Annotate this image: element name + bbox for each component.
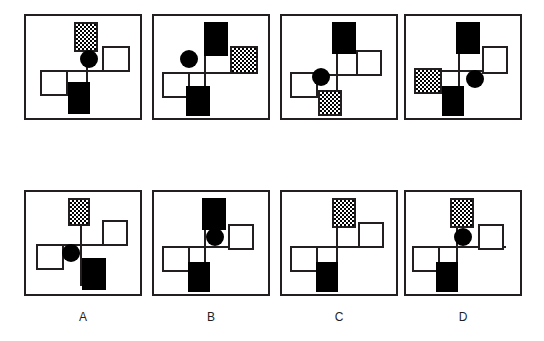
tile-left-checker <box>414 68 442 94</box>
figure-problem-1 <box>26 16 140 118</box>
tile-right-white <box>478 224 504 250</box>
tile-right-white <box>356 50 382 76</box>
panel-answer-B[interactable] <box>152 190 270 296</box>
tile-top-black <box>202 198 226 230</box>
figure-answer-B <box>154 192 268 294</box>
tile-bottom-black <box>82 258 106 290</box>
panel-problem-4 <box>404 14 522 120</box>
tile-bottom-checker <box>318 90 342 116</box>
tile-left-white <box>162 246 190 272</box>
tile-bottom-black <box>188 262 210 292</box>
answer-label-a: A <box>24 310 142 324</box>
answer-label-d: D <box>404 310 522 324</box>
answer-row <box>0 190 544 298</box>
dot-icon <box>454 228 472 246</box>
tile-right-white <box>102 46 130 72</box>
figure-problem-3 <box>282 16 396 118</box>
dot-icon <box>466 70 484 88</box>
figure-problem-2 <box>154 16 268 118</box>
tile-top-checker <box>332 198 356 228</box>
panel-problem-1 <box>24 14 142 120</box>
answer-labels: ABCD <box>0 310 544 328</box>
dot-icon <box>180 50 198 68</box>
tile-top-black <box>332 22 356 54</box>
tile-top-checker <box>450 198 474 228</box>
answer-label-b: B <box>152 310 270 324</box>
tile-right-white <box>102 220 128 246</box>
tile-right-white <box>228 224 254 250</box>
tile-right-white <box>358 222 384 248</box>
panel-answer-D[interactable] <box>404 190 522 296</box>
panel-problem-2 <box>152 14 270 120</box>
panel-answer-C[interactable] <box>280 190 398 296</box>
panel-answer-A[interactable] <box>24 190 142 296</box>
problem-row <box>0 14 544 122</box>
tile-bottom-black <box>436 262 458 292</box>
tile-left-white <box>290 246 318 272</box>
figure-answer-A <box>26 192 140 294</box>
tile-top-checker <box>74 22 98 52</box>
tile-left-white <box>36 244 64 270</box>
dot-icon <box>312 68 330 86</box>
figure-answer-C <box>282 192 396 294</box>
figure-problem-4 <box>406 16 520 118</box>
tile-bottom-black <box>316 262 338 292</box>
tile-right-checker <box>230 46 258 74</box>
tile-top-black <box>204 22 228 56</box>
tile-top-checker <box>68 198 90 226</box>
figure-answer-D <box>406 192 520 294</box>
dot-icon <box>80 50 98 68</box>
puzzle-figure: ABCD <box>0 0 544 341</box>
tile-bottom-black <box>186 86 210 116</box>
tile-top-black <box>456 22 480 54</box>
tile-right-white <box>482 46 508 74</box>
tile-bottom-black <box>68 82 90 114</box>
tile-left-white <box>40 70 68 96</box>
dot-icon <box>206 228 224 246</box>
tile-bottom-black <box>442 86 464 116</box>
dot-icon <box>62 244 80 262</box>
answer-label-c: C <box>280 310 398 324</box>
panel-problem-3 <box>280 14 398 120</box>
